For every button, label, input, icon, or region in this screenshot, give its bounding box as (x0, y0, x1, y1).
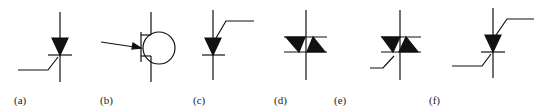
label-b: (b) (100, 94, 113, 106)
label-a: (a) (14, 94, 26, 106)
label-c: (c) (193, 94, 205, 106)
label-f: (f) (429, 94, 440, 106)
symbol-c-thyristor-icon (202, 10, 254, 80)
symbol-d-diac-icon (284, 10, 327, 80)
label-e: (e) (334, 94, 346, 106)
label-d: (d) (274, 94, 287, 106)
symbol-e-triac-icon (370, 10, 421, 80)
symbol-f-scs-icon (452, 8, 534, 78)
symbol-a-scr-icon (18, 12, 72, 82)
symbol-b-ujt-icon (101, 12, 175, 82)
